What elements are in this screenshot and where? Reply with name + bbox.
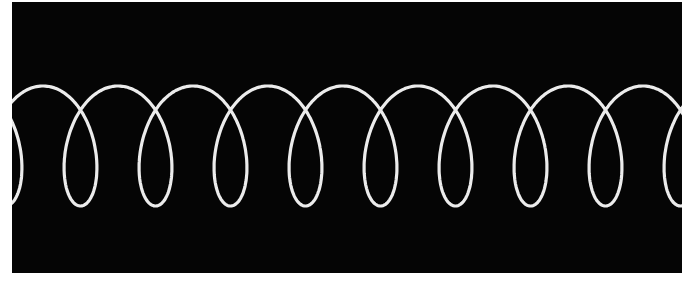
trace-photograph: Photograph of a bright looping trace (pr… — [12, 2, 682, 273]
trochoid-path — [12, 86, 682, 206]
looping-trace-curve — [12, 2, 682, 273]
